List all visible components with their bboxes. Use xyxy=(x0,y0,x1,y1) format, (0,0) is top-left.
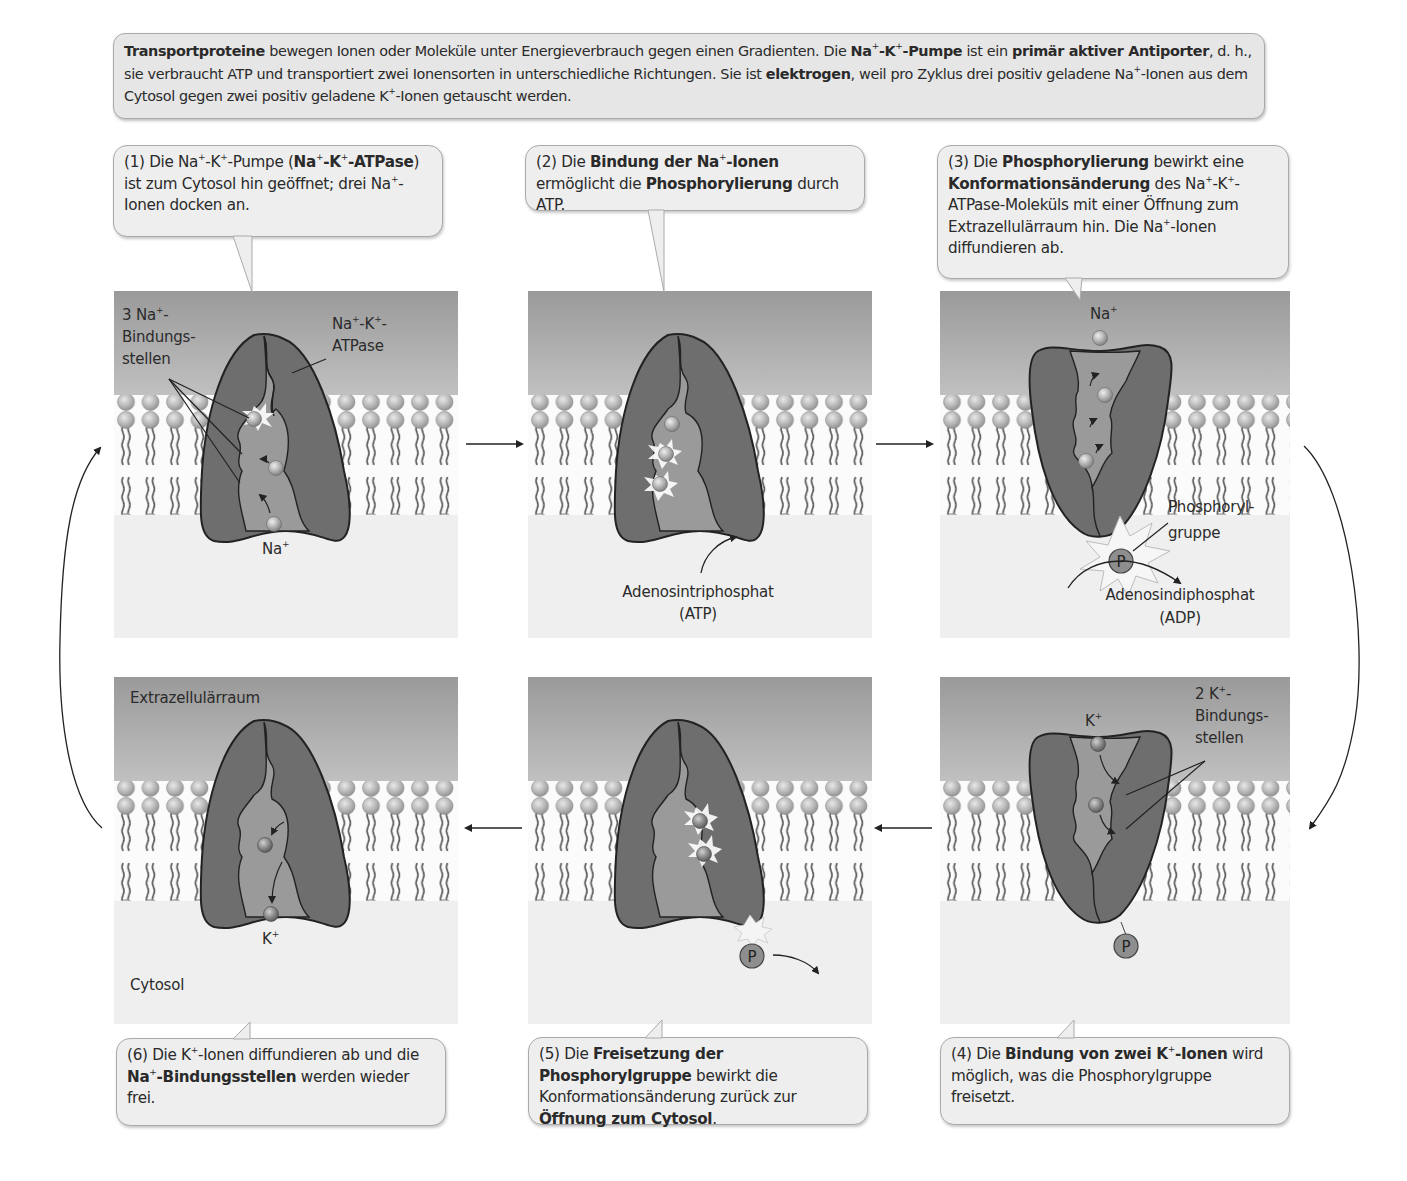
step-1-callout: (1) Die Na+-K+-Pumpe (Na+-K+-ATPase) ist… xyxy=(113,145,443,237)
step-2-diagram: Adenosintriphosphat (ATP) xyxy=(528,291,872,638)
intro-text: , weil pro Zyklus drei positiv geladene … xyxy=(851,66,1134,82)
step-text: Die xyxy=(557,153,590,171)
label-text: stellen xyxy=(1195,729,1244,747)
label-text: gruppe xyxy=(1168,524,1220,542)
atp-label: Adenosintriphosphat (ATP) xyxy=(608,581,788,625)
step-term: Phosphorylierung xyxy=(646,175,793,193)
superscript-plus: + xyxy=(388,86,395,96)
step-text: bewirkt eine xyxy=(1149,153,1244,171)
superscript-plus: + xyxy=(1219,684,1226,694)
phosphate-p-text: P xyxy=(1121,938,1130,956)
superscript-plus: + xyxy=(1110,304,1117,314)
step-term: Konformationsänderung xyxy=(948,175,1150,193)
step-4-callout: (4) Die Bindung von zwei K+-Ionen wird m… xyxy=(940,1037,1290,1125)
step-4-diagram: P K+ 2 K+- Bindungs- stellen xyxy=(940,677,1290,1024)
step-text: -K xyxy=(1212,175,1227,193)
superscript-plus: + xyxy=(1168,1044,1175,1054)
label-text: stellen xyxy=(122,350,171,368)
step-2-callout: (2) Die Bindung der Na+-Ionen ermöglicht… xyxy=(525,145,865,211)
k-ion-label: K+ xyxy=(1085,711,1102,732)
step-term: Öffnung zum Cytosol xyxy=(539,1110,712,1128)
na-binding-sites-label: 3 Na+- Bindungs- stellen xyxy=(122,304,195,370)
step-text: . xyxy=(712,1110,717,1128)
phosphoryl-group-label: Phosphoryl- gruppe xyxy=(1168,494,1254,546)
label-text: Bindungs- xyxy=(1195,707,1268,725)
intro-term-pumpe: -Pumpe xyxy=(903,43,963,59)
k-ion-label: K+ xyxy=(262,929,279,950)
na-ion-label: Na+ xyxy=(1090,304,1117,325)
phosphate-p-text: P xyxy=(1116,553,1125,571)
intro-term-na: Na xyxy=(851,43,872,59)
step-term: Na xyxy=(294,153,316,171)
label-text: Na xyxy=(1090,305,1110,323)
intro-term-transportproteine: Transportproteine xyxy=(124,43,265,59)
step-number: (6) xyxy=(127,1046,148,1064)
label-text: Adenosintriphosphat xyxy=(622,583,773,601)
superscript-plus: + xyxy=(282,539,289,549)
superscript-plus: + xyxy=(149,1067,156,1077)
intro-text: -Ionen getauscht werden. xyxy=(396,88,572,104)
label-text: K xyxy=(262,930,272,948)
step-term: Phosphorylierung xyxy=(1002,153,1149,171)
cytosol-label: Cytosol xyxy=(130,975,184,996)
superscript-plus: + xyxy=(191,1045,198,1055)
step-5-callout: (5) Die Freisetzung der Phosphorylgruppe… xyxy=(528,1037,868,1125)
label-text: ATPase xyxy=(332,337,384,355)
superscript-plus: + xyxy=(1095,711,1102,721)
step-text: Die Na xyxy=(145,153,198,171)
superscript-plus: + xyxy=(872,41,879,51)
step-term: -ATPase xyxy=(348,153,413,171)
callout-2-tail xyxy=(648,210,664,292)
label-text: 3 Na xyxy=(122,306,156,324)
step-text: Die K xyxy=(148,1046,191,1064)
label-text: (ADP) xyxy=(1159,609,1201,627)
step-5-illustration: P xyxy=(528,677,872,1024)
callout-6-tail xyxy=(233,1022,250,1039)
label-text: K xyxy=(1085,712,1095,730)
intro-term-k: -K xyxy=(879,43,895,59)
label-text: Na xyxy=(262,540,282,558)
superscript-plus: + xyxy=(272,929,279,939)
step-text: -Pumpe ( xyxy=(227,153,293,171)
step-term: -K xyxy=(323,153,340,171)
step-text: Die xyxy=(972,1045,1005,1063)
step-term: -Ionen xyxy=(726,153,779,171)
step-text: ermöglicht die xyxy=(536,175,646,193)
step-term: -Bindungsstellen xyxy=(157,1068,297,1086)
step-6-diagram: Extrazellulärraum K+ Cytosol xyxy=(114,677,458,1024)
label-text: Adenosindiphosphat xyxy=(1105,586,1254,604)
step-text: Die xyxy=(560,1045,593,1063)
step-6-callout: (6) Die K+-Ionen diffundieren ab und die… xyxy=(116,1038,446,1126)
intro-text-box: Transportproteine bewegen Ionen oder Mol… xyxy=(113,33,1265,119)
label-text: 2 K xyxy=(1195,685,1219,703)
superscript-plus: + xyxy=(1133,64,1140,74)
label-text: Phosphoryl- xyxy=(1168,498,1254,516)
arrow-step6-to-step1 xyxy=(60,448,102,828)
superscript-plus: + xyxy=(341,152,348,162)
intro-text: bewegen Ionen oder Moleküle unter Energi… xyxy=(265,43,851,59)
na-ion-label: Na+ xyxy=(262,539,289,560)
step-text: -K xyxy=(205,153,220,171)
label-text: - xyxy=(1226,685,1231,703)
label-text: - xyxy=(163,306,168,324)
step-number: (3) xyxy=(948,153,969,171)
intro-term-elektrogen: elektrogen xyxy=(766,66,851,82)
step-3-diagram: P Na+ Phosphoryl- gruppe Adenosindiphosp… xyxy=(940,291,1290,638)
adp-label: Adenosindiphosphat (ADP) xyxy=(1095,584,1265,630)
callout-1-tail xyxy=(233,236,252,292)
label-text: (ATP) xyxy=(679,605,717,623)
label-text: Bindungs- xyxy=(122,328,195,346)
step-term: Bindung von zwei K xyxy=(1005,1045,1168,1063)
label-text: - xyxy=(382,315,387,333)
superscript-plus: + xyxy=(895,41,902,51)
intro-term-antiporter: primär aktiver Antiporter xyxy=(1012,43,1209,59)
step-text: Die xyxy=(969,153,1002,171)
atpase-label: Na+-K+- ATPase xyxy=(332,313,387,357)
step-5-diagram: P xyxy=(528,677,872,1024)
intro-text: ist ein xyxy=(962,43,1012,59)
superscript-plus: + xyxy=(374,314,381,324)
step-term: -Ionen xyxy=(1175,1045,1228,1063)
arrow-step3-to-step4 xyxy=(1304,446,1359,828)
extracellular-label: Extrazellulärraum xyxy=(130,688,260,709)
phosphate-p-text: P xyxy=(747,948,756,966)
